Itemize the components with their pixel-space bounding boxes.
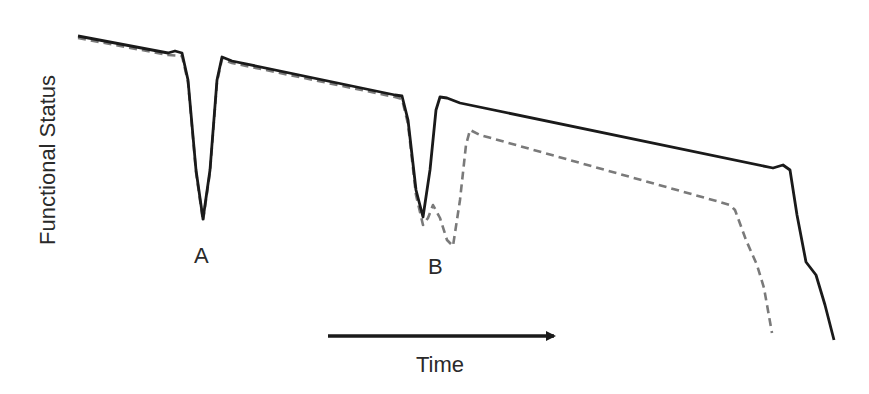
annotation-a: A bbox=[194, 243, 209, 269]
annotation-b: B bbox=[428, 254, 443, 280]
solid-trajectory-line bbox=[78, 36, 834, 340]
dashed-trajectory-line bbox=[78, 38, 772, 333]
x-axis-label: Time bbox=[416, 352, 464, 378]
functional-status-diagram bbox=[0, 0, 869, 394]
y-axis-label: Functional Status bbox=[35, 75, 61, 245]
